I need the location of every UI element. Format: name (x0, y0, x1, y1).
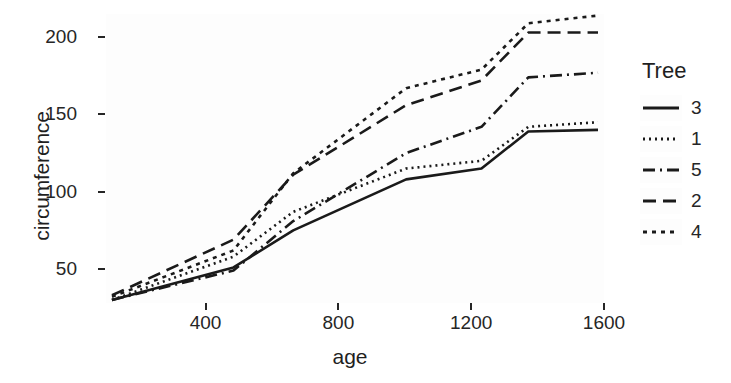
legend: Tree 31524 (640, 60, 731, 247)
y-tick-mark (98, 268, 105, 270)
y-tick-label: 150 (17, 103, 77, 125)
x-tick-label: 800 (298, 312, 378, 334)
legend-item-4[interactable]: 4 (640, 216, 731, 247)
y-tick-mark (98, 113, 105, 115)
legend-label: 4 (691, 222, 702, 241)
legend-key-longdash-icon (640, 219, 682, 245)
x-tick-mark (205, 303, 207, 310)
y-tick-label: 50 (17, 258, 77, 280)
line-series-3 (112, 130, 598, 300)
x-tick-mark (603, 303, 605, 310)
x-tick-label: 1600 (564, 312, 644, 334)
x-tick-label: 1200 (431, 312, 511, 334)
x-axis-title: age (100, 345, 600, 369)
line-series-2 (112, 33, 598, 296)
legend-item-5[interactable]: 5 (640, 154, 731, 185)
line-series-5 (112, 73, 598, 300)
legend-item-1[interactable]: 1 (640, 123, 731, 154)
legend-label: 1 (691, 129, 702, 148)
series-lines (106, 14, 604, 303)
legend-key-solid-icon (640, 95, 682, 121)
legend-item-3[interactable]: 3 (640, 92, 731, 123)
legend-label: 2 (691, 191, 702, 210)
legend-item-2[interactable]: 2 (640, 185, 731, 216)
legend-label: 5 (691, 160, 702, 179)
legend-key-dashed-icon (640, 188, 682, 214)
legend-title: Tree (642, 60, 731, 82)
legend-key-dotted-icon (640, 126, 682, 152)
plot-panel (106, 14, 604, 303)
legend-key-dotdash-icon (640, 157, 682, 183)
legend-label: 3 (691, 98, 702, 117)
y-tick-label: 200 (17, 26, 77, 48)
legend-items: 31524 (640, 92, 731, 247)
x-tick-mark (337, 303, 339, 310)
x-tick-label: 400 (166, 312, 246, 334)
chart-container: circumference 20015010050 40080012001600… (0, 0, 731, 383)
y-tick-mark (98, 36, 105, 38)
line-series-1 (112, 122, 598, 300)
y-tick-mark (98, 191, 105, 193)
y-axis: 20015010050 (0, 0, 104, 383)
y-tick-label: 100 (17, 181, 77, 203)
x-tick-mark (470, 303, 472, 310)
line-series-4 (112, 16, 598, 297)
